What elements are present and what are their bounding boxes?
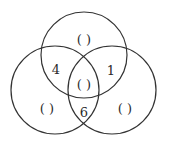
region-top-only: ( ) (77, 32, 91, 47)
region-right-only: ( ) (118, 101, 132, 116)
region-center: ( ) (77, 77, 91, 92)
region-top-left: 4 (52, 62, 60, 77)
venn-diagram: ( ) 4 1 ( ) ( ) 6 ( ) (0, 0, 169, 147)
region-left-only: ( ) (40, 101, 54, 116)
region-left-right: 6 (80, 105, 88, 120)
region-top-right: 1 (107, 63, 115, 78)
